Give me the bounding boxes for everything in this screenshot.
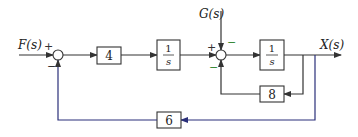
int2-denominator: s <box>269 56 274 67</box>
gain8-label: 8 <box>268 88 276 102</box>
junction2-minus-top: − <box>227 36 236 49</box>
summing-junction-1: + − <box>44 40 63 73</box>
gain6-label: 6 <box>165 114 173 128</box>
int1-denominator: s <box>166 56 171 67</box>
block-integrator-1: 1 s <box>157 40 180 70</box>
output-x: X(s) <box>284 38 344 55</box>
junction1-plus: + <box>44 40 53 53</box>
inner-feedback-to-j2 <box>221 60 260 94</box>
int2-numerator: 1 <box>269 43 275 54</box>
block-gain-4: 4 <box>97 47 121 64</box>
output-x-label: X(s) <box>319 38 344 52</box>
input-f-label: F(s) <box>17 38 42 52</box>
outer-feedback-to-gain6 <box>181 55 315 120</box>
junction2-plus: + <box>207 41 216 54</box>
int1-numerator: 1 <box>165 43 171 54</box>
block-integrator-2: 1 s <box>260 40 284 70</box>
outer-feedback-to-j1 <box>58 60 157 120</box>
gain4-label: 4 <box>105 49 113 63</box>
junction2-minus-bottom: − <box>209 61 218 74</box>
block-diagram: F(s) + − 4 1 s G(s) + − − 1 <box>0 0 358 137</box>
inner-feedback-to-gain8 <box>284 55 303 94</box>
junction1-minus: − <box>47 60 56 73</box>
